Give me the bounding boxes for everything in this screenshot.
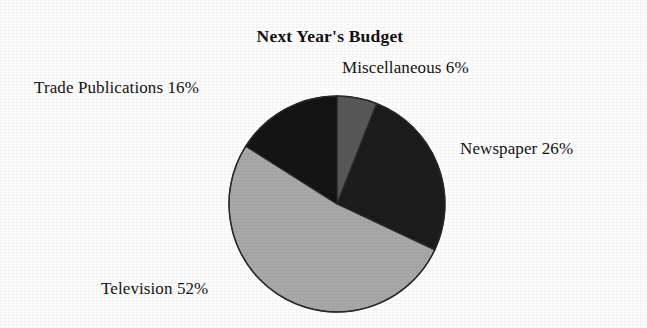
pie-chart-graphic <box>227 94 447 314</box>
pie-chart-figure: Next Year's Budget Trade Publications 16… <box>0 0 647 328</box>
slice-label-newspaper: Newspaper 26% <box>460 139 573 159</box>
slice-label-television: Television 52% <box>101 279 208 299</box>
pie-svg <box>227 94 447 314</box>
chart-title: Next Year's Budget <box>0 26 647 47</box>
slice-label-miscellaneous: Miscellaneous 6% <box>342 58 469 78</box>
slice-label-trade-publications: Trade Publications 16% <box>34 78 199 98</box>
